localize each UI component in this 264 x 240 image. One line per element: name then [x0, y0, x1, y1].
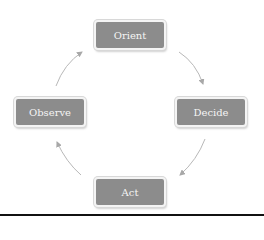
node-orient: Orient — [94, 20, 166, 50]
node-observe-label: Observe — [29, 107, 71, 118]
node-decide-label: Decide — [193, 107, 228, 118]
node-observe: Observe — [14, 97, 86, 127]
node-act: Act — [94, 177, 166, 207]
node-orient-label: Orient — [114, 30, 147, 41]
node-decide: Decide — [175, 97, 247, 127]
horizontal-rule — [0, 214, 264, 216]
arrow-decide-to-act — [180, 139, 205, 175]
arrow-act-to-observe — [57, 142, 81, 175]
node-act-label: Act — [122, 187, 139, 198]
arrow-orient-to-decide — [179, 52, 203, 84]
arrow-observe-to-orient — [56, 52, 82, 86]
